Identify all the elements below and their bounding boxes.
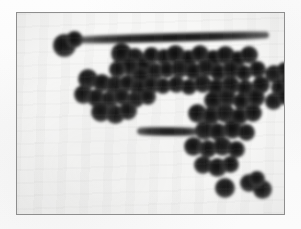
particle-blob	[222, 156, 239, 173]
particle-blob	[66, 31, 83, 48]
mid-short-streak	[137, 127, 199, 137]
particle-blob	[140, 89, 156, 105]
particle-blob	[119, 102, 137, 120]
upper-long-streak	[77, 30, 269, 44]
particle-blob-layer	[17, 13, 284, 214]
particle-blob	[244, 104, 262, 122]
particle-blob	[249, 171, 265, 187]
particle-blob	[249, 61, 266, 78]
particle-blob	[228, 141, 245, 158]
particle-blob	[238, 124, 255, 141]
scanned-page	[0, 0, 301, 229]
particle-blob	[215, 178, 235, 198]
figure-frame	[16, 12, 285, 215]
